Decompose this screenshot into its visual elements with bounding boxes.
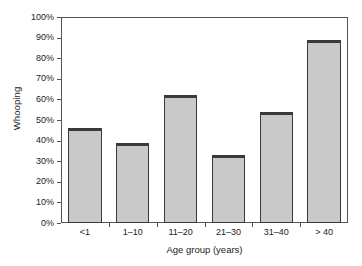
y-axis-tick-mark (57, 223, 61, 224)
y-axis-tick-label: 90% (14, 33, 54, 42)
y-axis-tick-label: 100% (14, 13, 54, 22)
x-axis-title: Age group (years) (61, 244, 348, 255)
y-axis-tick-label: 0% (14, 219, 54, 228)
y-axis-tick-labels: 0%10%20%30%40%50%60%70%80%90%100% (14, 0, 54, 266)
y-axis-tick-label: 60% (14, 95, 54, 104)
x-axis-tick-label: <1 (61, 227, 109, 238)
y-axis-tick-label: 20% (14, 177, 54, 186)
bar (260, 112, 293, 223)
bar (212, 155, 245, 223)
y-axis-tick-label: 80% (14, 54, 54, 63)
bar (116, 143, 149, 223)
y-axis-tick-label: 70% (14, 74, 54, 83)
x-axis-tick-label: > 40 (300, 227, 348, 238)
bar-series (61, 17, 348, 223)
y-axis-tick-label: 30% (14, 157, 54, 166)
y-axis-tick-label: 40% (14, 136, 54, 145)
x-axis-tick-label: 1–10 (109, 227, 157, 238)
y-axis-tick-label: 10% (14, 198, 54, 207)
bar (307, 40, 340, 223)
bar (164, 95, 197, 223)
bar (68, 128, 101, 223)
x-axis-tick-label: 11–20 (157, 227, 205, 238)
x-axis-tick-label: 21–30 (205, 227, 253, 238)
x-axis-tick-labels: <11–1011–2021–3031–40> 40 (61, 227, 348, 241)
y-axis-tick-label: 50% (14, 116, 54, 125)
bar-chart: Whooping 0%10%20%30%40%50%60%70%80%90%10… (0, 0, 362, 266)
x-axis-tick-label: 31–40 (252, 227, 300, 238)
